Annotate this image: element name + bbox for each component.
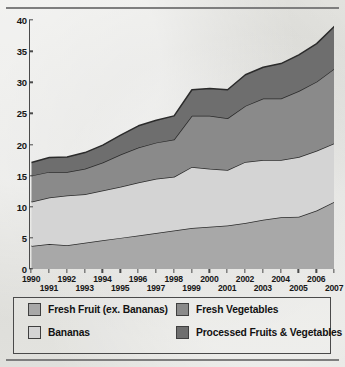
y-tick-mark-40 bbox=[29, 19, 33, 20]
y-tick-label-15: 15 bbox=[9, 170, 27, 181]
y-tick-mark-20 bbox=[29, 144, 33, 145]
y-tick-label-10: 10 bbox=[9, 201, 27, 212]
x-tick-mark-2003 bbox=[262, 269, 263, 273]
legend-row-bottom: Bananas Processed Fruits & Vegetables bbox=[14, 326, 330, 348]
x-tick-mark-2002 bbox=[244, 269, 245, 273]
x-tick-mark-1996 bbox=[137, 269, 138, 273]
legend-item-bananas[interactable]: Bananas bbox=[28, 326, 90, 339]
x-tick-mark-1997 bbox=[155, 269, 156, 273]
legend-item-processed[interactable]: Processed Fruits & Vegetables bbox=[176, 326, 342, 339]
x-tick-label-2000: 2000 bbox=[200, 274, 218, 284]
legend-item-fresh-vegetables[interactable]: Fresh Vegetables bbox=[176, 303, 278, 316]
legend-swatch-bananas bbox=[28, 326, 41, 339]
area-series-group bbox=[31, 20, 334, 269]
x-tick-mark-2000 bbox=[209, 269, 210, 273]
x-tick-mark-1993 bbox=[84, 269, 85, 273]
x-tick-mark-1994 bbox=[102, 269, 103, 273]
legend-label-bananas: Bananas bbox=[48, 327, 90, 338]
x-tick-label-2005: 2005 bbox=[289, 283, 307, 293]
x-tick-label-1992: 1992 bbox=[58, 274, 76, 284]
x-tick-mark-2004 bbox=[280, 269, 281, 273]
x-tick-label-2006: 2006 bbox=[307, 274, 325, 284]
x-tick-label-1991: 1991 bbox=[40, 283, 58, 293]
legend-swatch-fresh-vegetables bbox=[176, 303, 189, 316]
y-tick-label-20: 20 bbox=[9, 139, 27, 150]
x-tick-mark-1999 bbox=[191, 269, 192, 273]
legend-item-fresh-fruit[interactable]: Fresh Fruit (ex. Bananas) bbox=[28, 303, 168, 316]
x-tick-mark-2001 bbox=[227, 269, 228, 273]
chart-legend: Fresh Fruit (ex. Bananas) Fresh Vegetabl… bbox=[13, 297, 331, 354]
x-tick-label-2007: 2007 bbox=[325, 283, 343, 293]
x-tick-label-2001: 2001 bbox=[218, 283, 236, 293]
y-tick-mark-5 bbox=[29, 237, 33, 238]
legend-label-fresh-fruit: Fresh Fruit (ex. Bananas) bbox=[48, 304, 168, 315]
x-tick-label-1995: 1995 bbox=[111, 283, 129, 293]
x-tick-label-1990: 1990 bbox=[22, 274, 40, 284]
x-tick-mark-1995 bbox=[120, 269, 121, 273]
y-tick-label-35: 35 bbox=[9, 46, 27, 57]
horizontal-rule-top bbox=[6, 7, 339, 9]
x-tick-label-2003: 2003 bbox=[254, 283, 272, 293]
x-tick-label-1996: 1996 bbox=[129, 274, 147, 284]
legend-row-top: Fresh Fruit (ex. Bananas) Fresh Vegetabl… bbox=[14, 303, 330, 325]
y-tick-mark-25 bbox=[29, 113, 33, 114]
y-tick-label-30: 30 bbox=[9, 77, 27, 88]
y-tick-mark-35 bbox=[29, 50, 33, 51]
y-tick-label-40: 40 bbox=[9, 15, 27, 26]
y-tick-mark-10 bbox=[29, 206, 33, 207]
x-tick-label-1993: 1993 bbox=[75, 283, 93, 293]
x-tick-mark-2005 bbox=[298, 269, 299, 273]
x-tick-mark-2007 bbox=[333, 269, 334, 273]
x-axis: 1990199119921993199419951996199719981999… bbox=[6, 269, 339, 293]
y-tick-mark-15 bbox=[29, 175, 33, 176]
y-axis: 0510152025303540 bbox=[6, 13, 27, 276]
x-tick-mark-2006 bbox=[316, 269, 317, 273]
x-tick-label-1998: 1998 bbox=[165, 274, 183, 284]
legend-label-processed: Processed Fruits & Vegetables bbox=[196, 327, 342, 338]
x-tick-mark-1998 bbox=[173, 269, 174, 273]
x-tick-label-1997: 1997 bbox=[147, 283, 165, 293]
y-tick-mark-30 bbox=[29, 82, 33, 83]
x-tick-label-2002: 2002 bbox=[236, 274, 254, 284]
legend-swatch-fresh-fruit bbox=[28, 303, 41, 316]
y-tick-label-5: 5 bbox=[9, 232, 27, 243]
x-tick-label-1994: 1994 bbox=[93, 274, 111, 284]
x-tick-mark-1992 bbox=[66, 269, 67, 273]
y-tick-mark-0 bbox=[29, 268, 33, 269]
y-tick-label-25: 25 bbox=[9, 108, 27, 119]
x-tick-label-2004: 2004 bbox=[271, 274, 289, 284]
x-tick-mark-1991 bbox=[48, 269, 49, 273]
plot-area bbox=[31, 20, 334, 269]
horizontal-rule-bottom bbox=[6, 359, 339, 361]
x-tick-label-1999: 1999 bbox=[182, 283, 200, 293]
legend-label-fresh-vegetables: Fresh Vegetables bbox=[196, 304, 278, 315]
stacked-area-chart: 0510152025303540 19901991199219931994199… bbox=[6, 13, 339, 289]
legend-swatch-processed bbox=[176, 326, 189, 339]
